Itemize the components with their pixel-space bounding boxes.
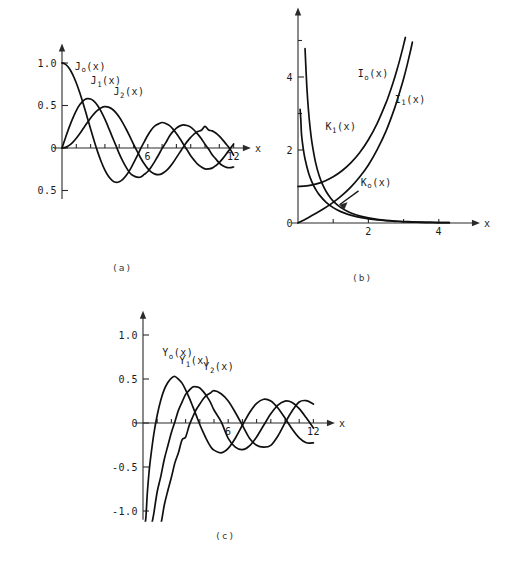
curve-label-iox: Io(x) xyxy=(358,68,389,82)
curve-yox xyxy=(145,376,314,524)
curve-j1x xyxy=(62,99,234,178)
x-axis-arrow-icon xyxy=(472,220,480,226)
y-tick-label: 0 xyxy=(50,143,57,154)
panel-c-plot: x612-1.0-0.500.51.0Yo(x)Y1(x)Y2(x) xyxy=(95,295,395,555)
x-axis-label: x xyxy=(255,143,261,154)
x-axis-label: x xyxy=(339,418,345,429)
curve-label-j2x: J2(x) xyxy=(113,86,144,100)
y-axis-arrow-icon xyxy=(295,8,301,16)
y-tick-label: 0.5 xyxy=(37,185,57,196)
panel-a-plot: x6120.500.51.0Jo(x)J1(x)J2(x) xyxy=(18,18,268,278)
y-tick-label: -0.5 xyxy=(112,462,138,473)
y-tick-label: 1.0 xyxy=(118,330,138,341)
curve-iox xyxy=(298,37,405,186)
x-axis-arrow-icon xyxy=(243,145,251,151)
curve-label-jox: Jo(x) xyxy=(75,61,106,75)
y-tick-label: 2 xyxy=(286,145,293,156)
panel-a-bessel-first-kind: x6120.500.51.0Jo(x)J1(x)J2(x) xyxy=(18,18,268,278)
x-tick-label: 4 xyxy=(436,226,443,237)
panel-b-caption: (b) xyxy=(352,272,372,283)
y-tick-label: 1.0 xyxy=(37,58,57,69)
curve-label-y2x: Y2(x) xyxy=(203,361,234,375)
curve-label-k1x: K1(x) xyxy=(325,121,356,135)
y-tick-label: 0 xyxy=(131,418,138,429)
curve-i1x xyxy=(298,42,412,223)
y-axis-arrow-icon xyxy=(140,311,146,319)
y-tick-label: 0.5 xyxy=(37,100,57,111)
curve-y2x xyxy=(152,391,313,526)
annotation-arrow-icon xyxy=(340,191,359,205)
bessel-function-figure: x6120.500.51.0Jo(x)J1(x)J2(x) (a) x24240… xyxy=(0,0,505,569)
y-axis-arrow-icon xyxy=(59,44,65,52)
x-tick-label: 12 xyxy=(227,151,240,162)
curve-kox xyxy=(300,109,449,222)
panel-a-caption: (a) xyxy=(112,262,132,273)
panel-c-bessel-second-kind: x612-1.0-0.500.51.0Yo(x)Y1(x)Y2(x) xyxy=(95,295,395,555)
curve-label-i1x: I1(x) xyxy=(395,94,426,108)
curve-label-kox: Ko(x) xyxy=(361,177,392,191)
x-tick-label: 2 xyxy=(365,226,372,237)
x-tick-label: 6 xyxy=(145,151,152,162)
panel-b-modified-bessel: x24240Io(x)I1(x)K1(x)Ko(x) xyxy=(268,18,505,288)
y-tick-label: 0 xyxy=(286,218,293,229)
x-axis-arrow-icon xyxy=(327,420,335,426)
y-tick-label: -1.0 xyxy=(112,506,138,517)
panel-c-caption: (c) xyxy=(215,530,235,541)
y-tick-label: 4 xyxy=(286,72,293,83)
curve-y1x xyxy=(147,387,313,525)
y-tick-label: 0.5 xyxy=(118,374,138,385)
x-axis-label: x xyxy=(484,218,490,229)
panel-b-plot: x24240Io(x)I1(x)K1(x)Ko(x) xyxy=(268,18,505,288)
